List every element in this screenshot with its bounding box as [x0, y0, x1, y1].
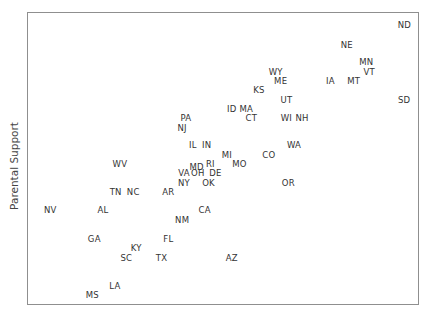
data-point-tx: TX	[156, 253, 167, 262]
plot-area: NDNEMNVTWYMEIAMTKSUTSDIDMACTWINHPANJILIN…	[27, 12, 419, 305]
data-point-va: VA	[178, 169, 190, 178]
data-point-id: ID	[227, 104, 236, 113]
data-point-al: AL	[98, 206, 109, 215]
data-point-ut: UT	[280, 96, 292, 105]
data-point-il: IL	[189, 141, 197, 150]
data-point-oh: OH	[191, 169, 204, 178]
data-point-ct: CT	[246, 114, 258, 123]
data-point-mn: MN	[359, 58, 373, 67]
data-point-nc: NC	[127, 188, 140, 197]
data-point-nd: ND	[398, 20, 411, 29]
data-point-wi: WI	[281, 114, 292, 123]
data-point-sc: SC	[120, 253, 132, 262]
data-point-ms: MS	[86, 291, 99, 300]
data-point-ne: NE	[341, 41, 353, 50]
data-point-ks: KS	[253, 86, 264, 95]
data-point-pa: PA	[181, 114, 192, 123]
data-point-me: ME	[274, 76, 287, 85]
data-point-nj: NJ	[177, 124, 186, 133]
data-point-mi: MI	[222, 151, 232, 160]
data-point-ca: CA	[199, 206, 211, 215]
data-point-wv: WV	[113, 160, 128, 169]
data-point-ar: AR	[162, 188, 174, 197]
data-point-co: CO	[262, 151, 275, 160]
data-point-fl: FL	[163, 235, 173, 244]
data-point-mt: MT	[347, 76, 360, 85]
data-point-nm: NM	[175, 216, 189, 225]
data-point-ga: GA	[88, 235, 101, 244]
data-point-de: DE	[209, 169, 221, 178]
data-point-nv: NV	[44, 206, 57, 215]
data-point-az: AZ	[226, 253, 238, 262]
data-point-ok: OK	[202, 179, 215, 188]
data-point-la: LA	[109, 281, 120, 290]
data-point-mo: MO	[232, 160, 246, 169]
data-point-vt: VT	[364, 68, 375, 77]
y-axis-label: Parental Support	[8, 122, 20, 210]
data-point-or: OR	[282, 179, 295, 188]
data-point-ma: MA	[240, 104, 254, 113]
data-point-ny: NY	[178, 179, 190, 188]
data-point-ri: RI	[206, 160, 215, 169]
data-point-wa: WA	[287, 141, 301, 150]
data-point-ia: IA	[326, 76, 335, 85]
data-point-nh: NH	[295, 114, 308, 123]
data-point-ky: KY	[131, 244, 142, 253]
data-point-in: IN	[202, 141, 211, 150]
data-point-sd: SD	[398, 96, 410, 105]
data-point-tn: TN	[110, 188, 122, 197]
